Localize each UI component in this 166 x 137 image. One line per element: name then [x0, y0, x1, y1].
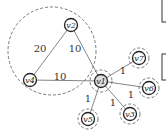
node-label: v2	[66, 21, 76, 30]
graph-diagram: 2010101111 v2v4v1v7v6v3v5	[0, 0, 166, 137]
node-v1: v1	[95, 75, 108, 88]
edges	[30, 25, 149, 119]
edge-weight-label: 1	[120, 65, 126, 76]
edge-weight-label: 10	[54, 71, 67, 82]
edge-weight-label: 10	[69, 43, 82, 54]
node-v6: v6	[143, 82, 156, 95]
node-label: v6	[144, 84, 154, 93]
node-label: v4	[25, 76, 35, 85]
node-label: v3	[125, 110, 135, 119]
node-v7: v7	[133, 52, 146, 65]
node-v2: v2	[65, 19, 78, 32]
node-v4: v4	[24, 74, 37, 87]
cropped-box-top	[162, 0, 166, 22]
node-label: v7	[134, 54, 145, 63]
edge-weight-label: 20	[34, 43, 47, 54]
node-v3: v3	[124, 108, 137, 121]
edge-weight-label: 1	[110, 97, 116, 108]
edge-weights: 2010101111	[34, 43, 135, 108]
edge-v1-v6	[101, 81, 149, 88]
cropped-box-middle	[162, 54, 166, 80]
edge-weight-label: 1	[128, 89, 134, 100]
edge-weight-label: 1	[85, 93, 91, 104]
node-v5: v5	[82, 113, 95, 126]
node-label: v1	[96, 77, 106, 86]
node-label: v5	[83, 115, 93, 124]
clusters	[8, 7, 159, 129]
nodes: v2v4v1v7v6v3v5	[24, 19, 156, 126]
